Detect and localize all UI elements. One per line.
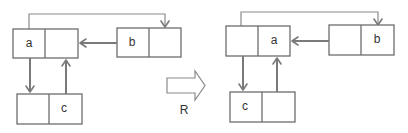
node-a-right: a: [226, 26, 290, 56]
node-b-label: b: [129, 35, 136, 49]
node-b-label: b: [374, 32, 381, 46]
node-a-left: a: [13, 29, 78, 58]
node-c-label: c: [242, 99, 248, 113]
diagram-canvas: a b c R: [0, 0, 408, 133]
node-b-right: b: [329, 25, 394, 55]
node-c-left: c: [17, 94, 82, 124]
node-b-left: b: [117, 28, 181, 57]
wire-a-to-b: [29, 14, 165, 29]
left-structure: a b c: [13, 14, 181, 124]
wire-a-to-b: [241, 12, 378, 26]
transform-label: R: [180, 103, 189, 117]
node-a-label: a: [26, 36, 33, 50]
transform-arrow: R: [167, 71, 205, 117]
block-arrow-right-icon: [167, 71, 205, 100]
node-c-right: c: [230, 92, 295, 122]
node-c-label: c: [61, 101, 67, 115]
node-a-label: a: [271, 33, 278, 47]
right-structure: a b c: [226, 12, 394, 122]
